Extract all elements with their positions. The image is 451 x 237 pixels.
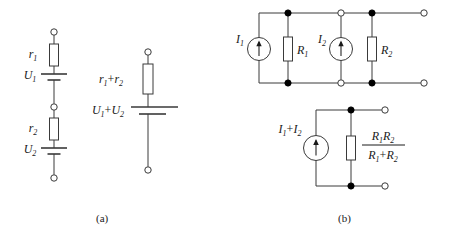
label-r2: r2 (29, 121, 38, 137)
terminal-top-right-b-eq (382, 107, 388, 113)
junction-node-Req-top (348, 107, 354, 113)
resistor-r1-plus-r2-body (143, 64, 153, 94)
label-parallel-resistance-numerator: R1R2 (371, 129, 395, 145)
resistor-R2-body (368, 37, 377, 61)
label-i1: I1 (235, 32, 244, 48)
terminal-top-a-eq (145, 49, 151, 55)
junction-node-R1-top (285, 10, 291, 16)
label-u2: U2 (24, 142, 37, 158)
panel-b-equivalent-labels: I1+I2 R1R2 R1+R2 (278, 122, 405, 164)
terminal-bottom-a-eq (145, 167, 151, 173)
junction-node-Req-bottom (348, 183, 354, 189)
panel-a-equivalent-labels: r1+r2 U1+U2 (92, 72, 124, 119)
panel-a-caption: (a) (96, 212, 108, 224)
resistor-r1-body (50, 44, 59, 66)
label-r1-plus-r2: r1+r2 (99, 72, 123, 88)
circuit-figure: r1 U1 r2 U2 r1+r2 (0, 0, 451, 237)
resistor-R1-body (284, 37, 293, 61)
junction-node-R2-bottom (369, 80, 375, 86)
terminal-mid-a (51, 104, 57, 110)
panel-b-original-circuit (248, 10, 428, 86)
resistor-r2-body (50, 118, 59, 140)
terminal-bottom-a (51, 175, 57, 181)
terminal-i2-top (338, 10, 344, 16)
label-u1: U1 (24, 68, 37, 84)
label-r1: r1 (29, 47, 38, 63)
junction-node-R2-top (369, 10, 375, 16)
label-i2: I2 (317, 32, 326, 48)
label-i1-plus-i2: I1+I2 (278, 122, 302, 138)
terminal-top-right-b (421, 10, 427, 16)
panel-a-equivalent-circuit (131, 49, 178, 173)
panel-a-original-labels: r1 U1 r2 U2 (24, 47, 38, 158)
terminal-bottom-right-b-eq (382, 183, 388, 189)
terminal-bottom-right-b (421, 80, 427, 86)
circuit-diagram-svg: r1 U1 r2 U2 r1+r2 (0, 0, 451, 237)
terminal-i2-bottom (338, 80, 344, 86)
label-R2: R2 (380, 43, 392, 59)
resistor-parallel-combination-body (347, 136, 356, 160)
terminal-top-a (51, 29, 57, 35)
label-u1-plus-u2: U1+U2 (92, 103, 124, 119)
label-R1: R1 (296, 43, 308, 59)
label-parallel-resistance-denominator: R1+R2 (367, 148, 397, 164)
junction-node-R1-bottom (285, 80, 291, 86)
panel-a-original-circuit (41, 29, 67, 181)
panel-b-caption: (b) (338, 212, 351, 224)
